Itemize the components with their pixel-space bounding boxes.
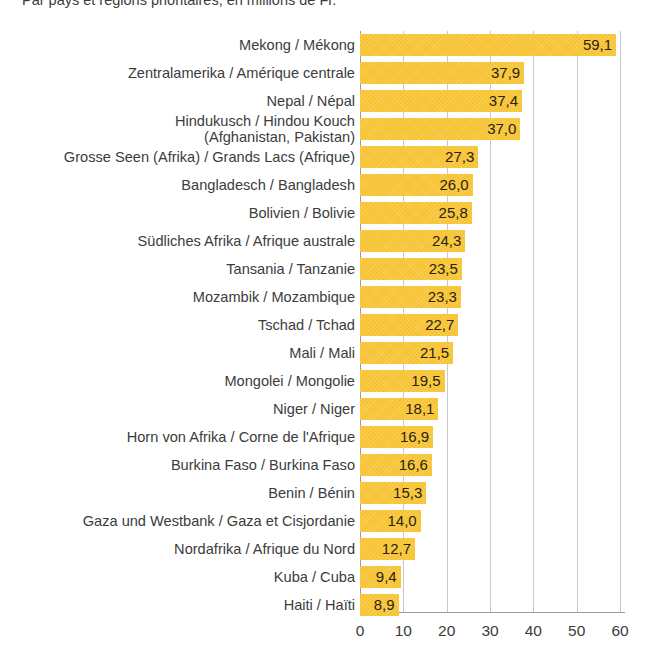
category-label: Horn von Afrika / Corne de l'Afrique [127,423,355,451]
bar-row[interactable]: Gaza und Westbank / Gaza et Cisjordanie1… [0,507,648,535]
bar-value-label: 16,6 [360,454,432,476]
bar-value-label: 9,4 [360,566,401,588]
category-label-line1: Nordafrika / Afrique du Nord [174,541,355,558]
bar-value-label: 23,5 [360,258,462,280]
category-label-line1: Mongolei / Mongolie [224,373,355,390]
category-label-line1: Haiti / Haïti [284,597,355,614]
bar-row[interactable]: Nepal / Népal37,4 [0,87,648,115]
category-label: Grosse Seen (Afrika) / Grands Lacs (Afri… [64,143,355,171]
bar-value-label: 19,5 [360,370,445,392]
bar-value-label: 21,5 [360,342,453,364]
category-label: Benin / Bénin [268,479,355,507]
category-label-line1: Hindukusch / Hindou Kouch [175,113,355,130]
category-label: Nordafrika / Afrique du Nord [174,535,355,563]
bar-row[interactable]: Südliches Afrika / Afrique australe24,3 [0,227,648,255]
category-label-line1: Burkina Faso / Burkina Faso [171,457,355,474]
category-label-line1: Niger / Niger [273,401,355,418]
bar-row[interactable]: Tschad / Tchad22,7 [0,311,648,339]
category-label: Mali / Mali [289,339,355,367]
bar-row[interactable]: Grosse Seen (Afrika) / Grands Lacs (Afri… [0,143,648,171]
bar-row[interactable]: Mali / Mali21,5 [0,339,648,367]
category-label: Gaza und Westbank / Gaza et Cisjordanie [83,507,355,535]
category-label-line1: Mekong / Mékong [239,37,355,54]
x-axis-tick-labels: 0102030405060 [360,620,620,644]
bar-row[interactable]: Zentralamerika / Amérique centrale37,9 [0,59,648,87]
bar-value-label: 37,0 [360,118,520,140]
bar-row[interactable]: Haiti / Haïti8,9 [0,591,648,619]
category-label: Bangladesch / Bangladesh [181,171,355,199]
category-label-line1: Bolivien / Bolivie [249,205,355,222]
bar-value-label: 14,0 [360,510,421,532]
category-label: Zentralamerika / Amérique centrale [128,59,355,87]
category-label: Südliches Afrika / Afrique australe [138,227,355,255]
bar-row[interactable]: Horn von Afrika / Corne de l'Afrique16,9 [0,423,648,451]
bar-row[interactable]: Niger / Niger18,1 [0,395,648,423]
bar-row[interactable]: Benin / Bénin15,3 [0,479,648,507]
bar-value-label: 12,7 [360,538,415,560]
category-label-line1: Tschad / Tchad [258,317,355,334]
bar-value-label: 37,9 [360,62,524,84]
x-tick-label: 20 [427,620,467,642]
x-tick-label: 50 [557,620,597,642]
category-label: Mekong / Mékong [239,31,355,59]
bar-row[interactable]: Burkina Faso / Burkina Faso16,6 [0,451,648,479]
bar-row[interactable]: Mekong / Mékong59,1 [0,31,648,59]
category-label: Bolivien / Bolivie [249,199,355,227]
x-tick-label: 60 [600,620,640,642]
bar-value-label: 23,3 [360,286,461,308]
category-label-line1: Grosse Seen (Afrika) / Grands Lacs (Afri… [64,149,355,166]
category-label: Tschad / Tchad [258,311,355,339]
bar-rows: Mekong / Mékong59,1Zentralamerika / Amér… [0,31,648,619]
bar-value-label: 16,9 [360,426,433,448]
horizontal-bar-chart: Mekong / Mékong59,1Zentralamerika / Amér… [0,0,648,665]
x-tick-label: 30 [470,620,510,642]
category-label: Kuba / Cuba [274,563,355,591]
bar-value-label: 22,7 [360,314,458,336]
category-label-line1: Kuba / Cuba [274,569,355,586]
bar-value-label: 24,3 [360,230,465,252]
category-label: Burkina Faso / Burkina Faso [171,451,355,479]
category-label-line1: Mozambik / Mozambique [193,289,355,306]
category-label-line1: Gaza und Westbank / Gaza et Cisjordanie [83,513,355,530]
bar-value-label: 25,8 [360,202,472,224]
category-label-line1: Benin / Bénin [268,485,355,502]
x-tick-label: 0 [340,620,380,642]
category-label: Haiti / Haïti [284,591,355,619]
category-label: Hindukusch / Hindou Kouch(Afghanistan, P… [175,115,355,143]
bar-row[interactable]: Mozambik / Mozambique23,3 [0,283,648,311]
bar-row[interactable]: Tansania / Tanzanie23,5 [0,255,648,283]
bar-row[interactable]: Hindukusch / Hindou Kouch(Afghanistan, P… [0,115,648,143]
bar-row[interactable]: Mongolei / Mongolie19,5 [0,367,648,395]
x-tick-label: 40 [513,620,553,642]
bar-value-label: 27,3 [360,146,478,168]
category-label-line1: Mali / Mali [289,345,355,362]
category-label-line1: Südliches Afrika / Afrique australe [138,233,355,250]
bar-row[interactable]: Kuba / Cuba9,4 [0,563,648,591]
x-tick-label: 10 [383,620,423,642]
category-label-line1: Zentralamerika / Amérique centrale [128,65,355,82]
category-label-line1: Bangladesch / Bangladesh [181,177,355,194]
category-label: Niger / Niger [273,395,355,423]
category-label-line1: Nepal / Népal [267,93,355,110]
category-label: Mozambik / Mozambique [193,283,355,311]
bar-value-label: 26,0 [360,174,473,196]
category-label: Tansania / Tanzanie [226,255,355,283]
bar-row[interactable]: Nordafrika / Afrique du Nord12,7 [0,535,648,563]
category-label: Mongolei / Mongolie [224,367,355,395]
bar-value-label: 15,3 [360,482,426,504]
bar-value-label: 8,9 [360,594,399,616]
bar-row[interactable]: Bangladesch / Bangladesh26,0 [0,171,648,199]
bar-value-label: 59,1 [360,34,616,56]
category-label-line1: Tansania / Tanzanie [226,261,355,278]
bar-value-label: 37,4 [360,90,522,112]
bar-value-label: 18,1 [360,398,438,420]
category-label: Nepal / Népal [267,87,355,115]
category-label-line1: Horn von Afrika / Corne de l'Afrique [127,429,355,446]
bar-row[interactable]: Bolivien / Bolivie25,8 [0,199,648,227]
